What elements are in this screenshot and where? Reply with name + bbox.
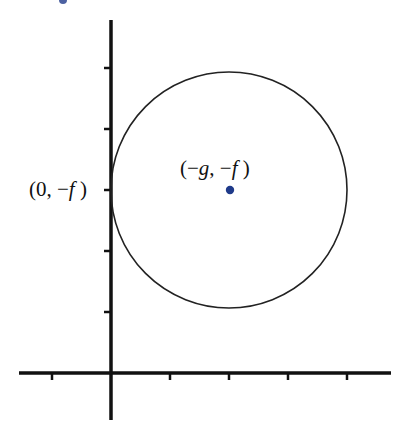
- circle-diagram: (−g, −f ) (0, −f ): [0, 0, 417, 439]
- tangent-point-label: (0, −f ): [29, 177, 87, 201]
- center-label: (−g, −f ): [180, 156, 250, 180]
- center-point: [226, 186, 234, 194]
- artifact-dot: [59, 0, 67, 4]
